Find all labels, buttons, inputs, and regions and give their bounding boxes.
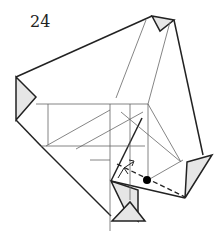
top-right-flap <box>152 16 174 31</box>
crease-lines <box>36 20 183 231</box>
outer-paper-outline <box>16 16 203 216</box>
bottom-flap-lower <box>112 202 145 221</box>
reference-dot <box>143 176 151 184</box>
left-flap <box>16 77 36 120</box>
origami-diagram <box>0 0 223 231</box>
right-flap <box>185 155 212 198</box>
